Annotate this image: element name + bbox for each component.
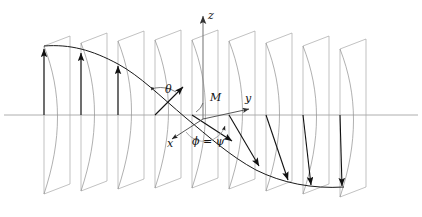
y-axis-label: y	[244, 92, 252, 105]
spin-vector	[303, 115, 311, 185]
spin-precession-diagram: z y x M θ ϕ = ψ	[0, 0, 422, 217]
figure-container: z y x M θ ϕ = ψ	[0, 0, 422, 217]
spin-vector	[229, 115, 259, 166]
z-axis-label: z	[207, 9, 214, 22]
theta-angle-label: θ	[165, 83, 172, 96]
plane-slice	[155, 30, 181, 188]
plane-slice	[118, 31, 144, 189]
x-axis-label: x	[167, 137, 174, 150]
coordinate-axes	[172, 16, 249, 139]
plane-group	[44, 30, 366, 197]
spin-vector	[266, 115, 288, 180]
point-m-label: M	[209, 91, 222, 104]
vector-group	[44, 49, 342, 186]
theta-arc-inner	[196, 103, 203, 112]
plane-slice	[340, 39, 366, 197]
plane-slice	[229, 31, 255, 189]
plane-slice	[266, 33, 292, 191]
phi-psi-angle-label: ϕ = ψ	[192, 135, 225, 148]
plane-slice	[192, 30, 218, 188]
